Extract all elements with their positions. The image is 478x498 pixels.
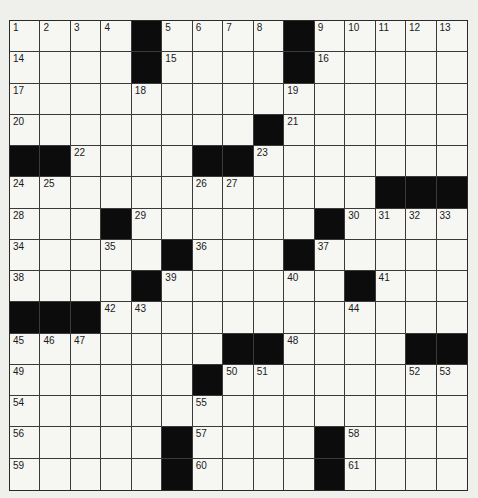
grid-cell[interactable]: 17 <box>10 84 40 115</box>
grid-cell[interactable] <box>406 115 436 146</box>
grid-cell[interactable]: 39 <box>162 271 192 302</box>
grid-cell[interactable] <box>376 240 406 271</box>
grid-cell[interactable] <box>132 396 162 427</box>
grid-cell[interactable]: 9 <box>315 21 345 52</box>
grid-cell[interactable] <box>284 177 314 208</box>
grid-cell[interactable] <box>376 52 406 83</box>
grid-cell[interactable] <box>132 334 162 365</box>
grid-cell[interactable] <box>162 115 192 146</box>
grid-cell[interactable]: 40 <box>284 271 314 302</box>
grid-cell[interactable] <box>223 52 253 83</box>
grid-cell[interactable] <box>101 271 131 302</box>
grid-cell[interactable]: 57 <box>193 427 223 458</box>
grid-cell[interactable]: 7 <box>223 21 253 52</box>
grid-cell[interactable]: 20 <box>10 115 40 146</box>
grid-cell[interactable] <box>162 334 192 365</box>
grid-cell[interactable] <box>101 396 131 427</box>
grid-cell[interactable] <box>315 115 345 146</box>
grid-cell[interactable] <box>71 209 101 240</box>
grid-cell[interactable] <box>71 427 101 458</box>
grid-cell[interactable]: 14 <box>10 52 40 83</box>
grid-cell[interactable] <box>284 427 314 458</box>
grid-cell[interactable]: 25 <box>40 177 70 208</box>
grid-cell[interactable] <box>376 334 406 365</box>
grid-cell[interactable]: 3 <box>71 21 101 52</box>
grid-cell[interactable] <box>132 177 162 208</box>
grid-cell[interactable]: 6 <box>193 21 223 52</box>
grid-cell[interactable] <box>345 240 375 271</box>
grid-cell[interactable]: 22 <box>71 146 101 177</box>
grid-cell[interactable] <box>254 271 284 302</box>
grid-cell[interactable]: 49 <box>10 365 40 396</box>
grid-cell[interactable]: 38 <box>10 271 40 302</box>
grid-cell[interactable]: 4 <box>101 21 131 52</box>
grid-cell[interactable]: 35 <box>101 240 131 271</box>
grid-cell[interactable] <box>101 334 131 365</box>
grid-cell[interactable] <box>437 396 467 427</box>
grid-cell[interactable] <box>71 84 101 115</box>
grid-cell[interactable] <box>345 84 375 115</box>
grid-cell[interactable] <box>101 115 131 146</box>
grid-cell[interactable] <box>376 396 406 427</box>
grid-cell[interactable] <box>223 209 253 240</box>
grid-cell[interactable] <box>40 271 70 302</box>
grid-cell[interactable] <box>101 459 131 490</box>
grid-cell[interactable]: 13 <box>437 21 467 52</box>
grid-cell[interactable] <box>71 115 101 146</box>
grid-cell[interactable] <box>193 52 223 83</box>
grid-cell[interactable]: 37 <box>315 240 345 271</box>
grid-cell[interactable] <box>40 427 70 458</box>
grid-cell[interactable] <box>284 209 314 240</box>
grid-cell[interactable] <box>223 302 253 333</box>
grid-cell[interactable] <box>71 459 101 490</box>
grid-cell[interactable] <box>40 396 70 427</box>
grid-cell[interactable] <box>376 115 406 146</box>
grid-cell[interactable] <box>223 459 253 490</box>
grid-cell[interactable] <box>162 84 192 115</box>
grid-cell[interactable] <box>40 84 70 115</box>
grid-cell[interactable]: 16 <box>315 52 345 83</box>
grid-cell[interactable]: 32 <box>406 209 436 240</box>
grid-cell[interactable]: 26 <box>193 177 223 208</box>
grid-cell[interactable] <box>40 240 70 271</box>
grid-cell[interactable]: 18 <box>132 84 162 115</box>
grid-cell[interactable] <box>193 302 223 333</box>
grid-cell[interactable]: 48 <box>284 334 314 365</box>
grid-cell[interactable] <box>71 396 101 427</box>
grid-cell[interactable]: 34 <box>10 240 40 271</box>
grid-cell[interactable] <box>437 146 467 177</box>
grid-cell[interactable] <box>437 302 467 333</box>
grid-cell[interactable] <box>376 302 406 333</box>
grid-cell[interactable] <box>71 240 101 271</box>
grid-cell[interactable] <box>315 396 345 427</box>
grid-cell[interactable] <box>437 84 467 115</box>
grid-cell[interactable] <box>71 365 101 396</box>
grid-cell[interactable] <box>345 334 375 365</box>
grid-cell[interactable] <box>406 271 436 302</box>
grid-cell[interactable]: 47 <box>71 334 101 365</box>
grid-cell[interactable] <box>254 396 284 427</box>
grid-cell[interactable]: 23 <box>254 146 284 177</box>
grid-cell[interactable] <box>315 177 345 208</box>
grid-cell[interactable] <box>40 52 70 83</box>
grid-cell[interactable]: 29 <box>132 209 162 240</box>
grid-cell[interactable] <box>284 459 314 490</box>
grid-cell[interactable]: 12 <box>406 21 436 52</box>
grid-cell[interactable] <box>254 240 284 271</box>
grid-cell[interactable] <box>101 84 131 115</box>
grid-cell[interactable] <box>132 365 162 396</box>
grid-cell[interactable] <box>376 146 406 177</box>
grid-cell[interactable]: 1 <box>10 21 40 52</box>
grid-cell[interactable] <box>345 115 375 146</box>
grid-cell[interactable] <box>376 365 406 396</box>
grid-cell[interactable]: 33 <box>437 209 467 240</box>
grid-cell[interactable] <box>437 459 467 490</box>
grid-cell[interactable] <box>223 84 253 115</box>
grid-cell[interactable] <box>40 209 70 240</box>
grid-cell[interactable] <box>437 240 467 271</box>
grid-cell[interactable] <box>284 146 314 177</box>
grid-cell[interactable]: 10 <box>345 21 375 52</box>
grid-cell[interactable]: 43 <box>132 302 162 333</box>
grid-cell[interactable] <box>193 84 223 115</box>
grid-cell[interactable] <box>101 365 131 396</box>
